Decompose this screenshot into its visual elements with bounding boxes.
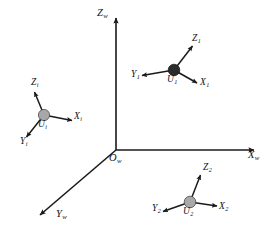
label-axis-yw: Yw (56, 209, 67, 220)
label-axis-zw: Zw (97, 8, 108, 19)
label-node-u2: U2 (183, 207, 193, 217)
label-axis-zi: Zi (31, 78, 38, 88)
label-axis-yi: Yi (20, 137, 27, 147)
label-axis-x2: X2 (219, 202, 228, 212)
label-node-ui: Ui (38, 120, 47, 130)
frame-ui-group (27, 92, 73, 137)
label-axis-z2: Z2 (203, 163, 212, 173)
label-axis-y1: Y1 (131, 70, 140, 80)
label-axis-x1: X1 (200, 78, 209, 88)
figure-canvas: Zw Xw Yw Ow Zi Xi Yi Ui Z1 X1 Y1 U1 Z2 X… (0, 0, 270, 246)
label-origin-ow: Ow (109, 153, 121, 164)
label-axis-xw: Xw (248, 150, 259, 161)
world-axes-group (40, 18, 254, 215)
label-axis-z1: Z1 (192, 34, 201, 44)
axis-yw-line (40, 150, 116, 215)
label-axis-xi: Xi (74, 112, 82, 122)
label-node-u1: U1 (167, 75, 177, 85)
label-axis-y2: Y2 (152, 204, 161, 214)
